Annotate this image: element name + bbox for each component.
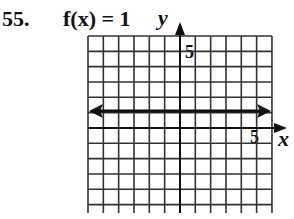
x-axis-arrow-icon bbox=[274, 123, 287, 133]
coordinate-grid bbox=[0, 0, 294, 219]
y-axis-arrow-icon bbox=[175, 22, 185, 35]
